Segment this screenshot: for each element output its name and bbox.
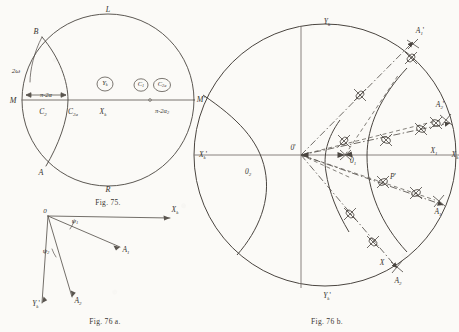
- fig75-circled-label-C2a: C2a: [158, 81, 167, 88]
- fig76b-endpoint-cross: [433, 195, 445, 207]
- fig75-label-R: R: [106, 186, 111, 194]
- fig76b-label-A2-prime: A2': [436, 101, 444, 110]
- fig76b-tick-mark: [410, 187, 422, 199]
- fig76b-label-P-prime: P': [390, 173, 396, 181]
- fig76a-angle-arc-psi2: [52, 249, 56, 257]
- fig75-label-two-omega: 2ω: [12, 68, 20, 75]
- fig76b-label-origin: 0': [290, 144, 295, 152]
- fig76a-label-psi-2: ψ2: [43, 248, 50, 256]
- fig75-circled-label-Yk: Yk: [102, 80, 108, 87]
- fig76b-arc-right-main: [367, 68, 407, 252]
- fig76a-arrow-Xk: [164, 215, 171, 220]
- fig75-label-pi-minus-2alpha-2: π-2α2: [155, 108, 169, 115]
- scanned-page: L R B A M M' 2ω π-2α C2 C2a Xk π-2α2 Yk …: [0, 0, 459, 332]
- fig76a-vector-A1: [48, 216, 120, 247]
- fig76a-label-vector-A1: A1: [122, 246, 129, 255]
- fig76b-label-O1: 01: [350, 157, 356, 166]
- fig76b-endpoint-cross: [407, 39, 419, 49]
- fig76b-tick-mark: [405, 52, 417, 64]
- fig76b-label-Yk-bottom: Yk': [323, 292, 331, 301]
- fig76b-label-Xk-right: Xk: [452, 151, 459, 160]
- fig76a-vector-A2: [48, 216, 72, 297]
- fig76b-tick-mark: [338, 135, 350, 147]
- fig76b-tick-mark: [367, 236, 379, 248]
- fig76b-ray-to-A2prime: [301, 123, 450, 155]
- fig76b-tick-mark: [377, 176, 389, 188]
- fig75-label-pi-minus-2alpha: π-2α: [40, 92, 52, 99]
- fig76b-arc-O2: [203, 95, 267, 255]
- figure-76b-drawing: [185, 0, 459, 320]
- fig76b-label-X-mark: X: [380, 259, 385, 267]
- fig76b-label-Xk-left: Xk': [199, 151, 207, 160]
- fig76a-axis-Xk: [48, 216, 170, 218]
- fig76b-tick-mark: [380, 134, 392, 146]
- fig76b-label-A1-prime: A1': [416, 27, 424, 36]
- fig76a-label-vector-A2: A2: [74, 297, 81, 306]
- fig76a-label-origin: 0: [43, 208, 47, 215]
- fig76b-dashed-lines: [301, 74, 440, 200]
- fig75-label-M: M: [10, 97, 17, 105]
- fig75-label-C2a: C2a: [68, 108, 78, 117]
- fig76b-label-Yk-top: Yk: [324, 18, 330, 27]
- fig76b-label-A2: A2: [394, 277, 401, 286]
- fig76b-label-O2: 02: [245, 168, 251, 177]
- fig76b-dash-O-to-A1: [301, 155, 435, 200]
- fig76b-caption: Fig. 76 b.: [311, 317, 343, 326]
- fig76b-label-A1: A1: [434, 208, 441, 217]
- fig76b-tick-mark: [415, 123, 427, 135]
- fig75-label-A: A: [39, 169, 44, 177]
- fig76a-axis-Yk: [42, 216, 48, 303]
- fig75-label-B: B: [34, 28, 39, 36]
- fig76b-tick-mark: [354, 89, 366, 101]
- fig76b-dash-O-to-A2prime: [301, 120, 440, 155]
- fig75-label-L: L: [106, 6, 110, 14]
- fig76b-tick-mark: [430, 117, 442, 129]
- fig76b-label-X1-right: X1: [430, 147, 437, 156]
- fig76a-label-axis-Yk: Yk': [32, 300, 40, 309]
- fig76b-tick-mark: [344, 208, 356, 220]
- fig76a-caption: Fig. 76 a.: [89, 317, 120, 326]
- fig76a-label-psi-1: ψ1: [72, 218, 79, 226]
- fig75-label-C2: C2: [39, 108, 46, 117]
- fig75-arc-B-A: [42, 37, 68, 166]
- fig75-label-Xk: Xk: [100, 108, 107, 117]
- fig76a-label-axis-Xk: Xk: [172, 206, 179, 215]
- fig75-circled-label-C1: C1: [138, 81, 144, 88]
- fig76b-dash-O1-up: [345, 74, 399, 155]
